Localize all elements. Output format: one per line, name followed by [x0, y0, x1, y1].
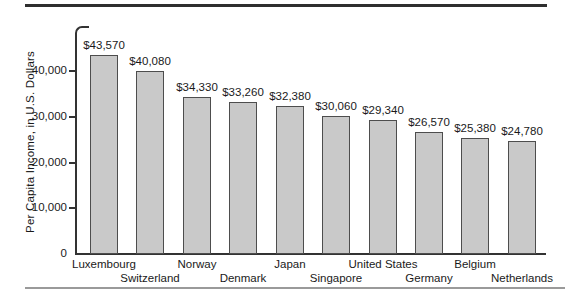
- bar-chart-figure: Per Capita Income, in U.S. Dollars 010,0…: [0, 0, 578, 294]
- category-label: United States: [339, 258, 427, 270]
- bar: [322, 116, 350, 254]
- bar-value-label: $24,780: [487, 125, 557, 138]
- bar: [136, 71, 164, 254]
- category-label: Germany: [385, 272, 473, 284]
- category-label: Belgium: [431, 258, 519, 270]
- bar-value-label: $40,080: [115, 55, 185, 68]
- category-label: Japan: [246, 258, 334, 270]
- category-label: Denmark: [199, 272, 287, 284]
- bar: [461, 138, 489, 254]
- y-tick-label: 40,000: [21, 64, 67, 77]
- y-tick-mark: [69, 207, 76, 209]
- bar: [369, 120, 397, 254]
- y-tick-mark: [69, 116, 76, 118]
- bottom-rule: [25, 287, 565, 289]
- bar: [90, 55, 118, 254]
- category-label: Norway: [153, 258, 241, 270]
- category-label: Singapore: [292, 272, 380, 284]
- category-label: Netherlands: [478, 272, 566, 284]
- y-tick-label: 30,000: [21, 110, 67, 123]
- bar-value-label: $43,570: [69, 39, 139, 52]
- bar: [183, 97, 211, 254]
- y-tick-label: 20,000: [21, 156, 67, 169]
- top-rule: [25, 4, 547, 7]
- y-axis-line: [75, 34, 77, 254]
- category-label: Switzerland: [106, 272, 194, 284]
- bar: [229, 102, 257, 254]
- y-tick-mark: [69, 162, 76, 164]
- category-label: Luxembourg: [60, 258, 148, 270]
- y-tick-mark: [69, 70, 76, 72]
- bar: [276, 106, 304, 254]
- bar: [508, 141, 536, 254]
- y-axis-top-hook: [75, 26, 89, 40]
- y-tick-label: 10,000: [21, 201, 67, 214]
- bar: [415, 132, 443, 254]
